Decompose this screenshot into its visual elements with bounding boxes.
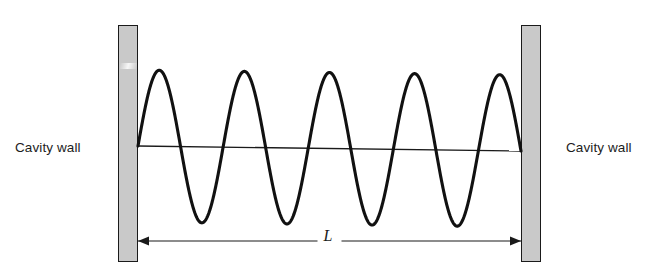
arrowhead-right-icon <box>510 237 521 246</box>
figure-canvas: Cavity wall Cavity wall L <box>0 0 648 278</box>
arrowhead-left-icon <box>138 237 149 246</box>
length-label: L <box>324 227 333 245</box>
